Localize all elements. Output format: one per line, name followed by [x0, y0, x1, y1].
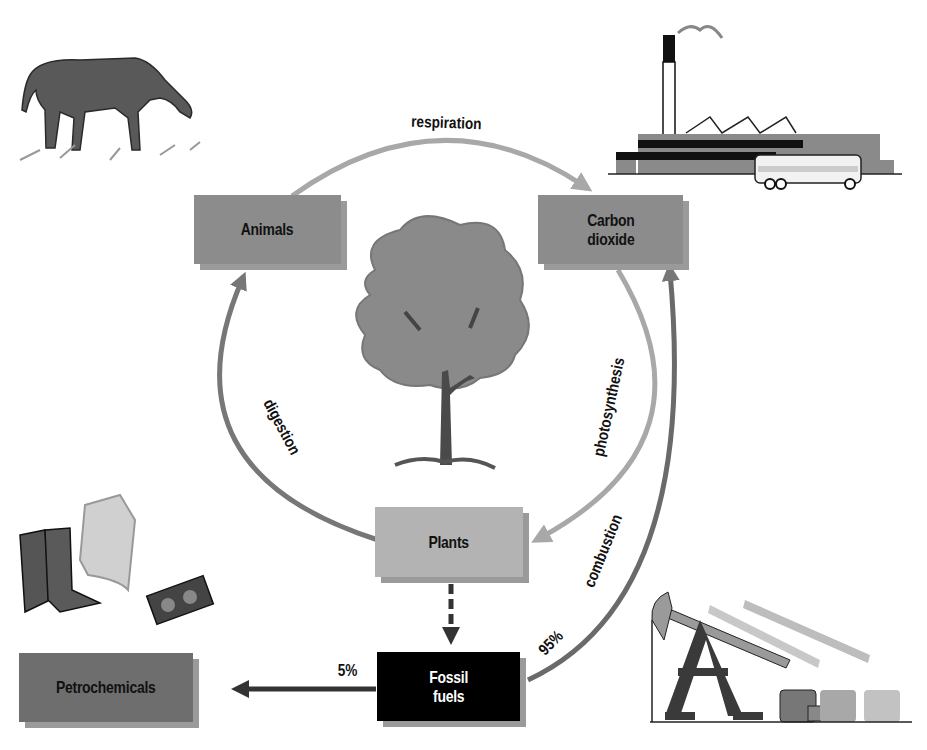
label-petrochemicals-share: 5% [338, 662, 358, 680]
node-plants-label: Plants [429, 533, 469, 552]
node-animals-label: Animals [241, 220, 294, 239]
label-respiration: respiration [411, 113, 482, 133]
node-plants: Plants [375, 507, 523, 577]
horse-illustration [20, 58, 200, 160]
node-petrochemicals: Petrochemicals [19, 653, 193, 722]
node-carbon-dioxide: Carbon dioxide [538, 195, 683, 264]
node-animals: Animals [194, 195, 341, 264]
tree-illustration [356, 216, 529, 468]
node-petrochemicals-label: Petrochemicals [56, 678, 156, 697]
node-fossil-fuels: Fossil fuels [377, 652, 520, 721]
boots-jacket-cassette-illustration [20, 495, 213, 624]
factory-illustration [608, 26, 902, 189]
oil-pumpjack-illustration [650, 592, 912, 722]
illustrations-layer [0, 0, 927, 750]
node-carbon-dioxide-label: Carbon dioxide [587, 211, 634, 249]
node-fossil-fuels-label: Fossil fuels [429, 668, 468, 706]
